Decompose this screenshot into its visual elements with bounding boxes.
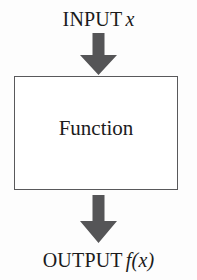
function-box-label: Function [15, 118, 177, 139]
output-variable-text: f(x) [123, 249, 155, 271]
output-prefix-text: OUTPUT [43, 249, 123, 271]
input-prefix-text: INPUT [63, 8, 123, 30]
function-box: Function [14, 76, 178, 190]
function-machine-diagram: INPUTx Function OUTPUTf(x) [0, 0, 197, 280]
output-arrow-icon [80, 195, 117, 243]
input-label: INPUTx [0, 9, 197, 29]
input-arrow-icon [80, 33, 117, 75]
input-variable-text: x [122, 8, 134, 30]
output-label: OUTPUTf(x) [0, 250, 197, 270]
